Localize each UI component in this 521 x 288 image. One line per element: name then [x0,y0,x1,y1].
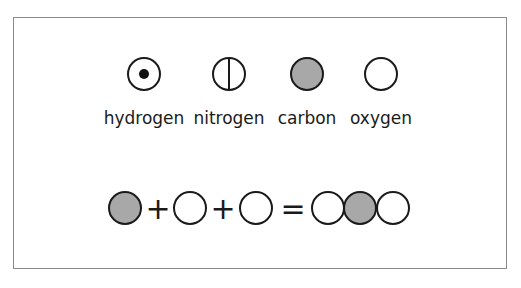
carbon-atom-icon [291,58,323,90]
reactant-carbon-icon [109,192,141,224]
legend-hydrogen: hydrogen [104,58,185,128]
hydrogen-label: hydrogen [104,108,185,128]
reactant-oxygen-icon-1 [174,192,206,224]
reactant-oxygen-icon-2 [240,192,272,224]
plus-sign-1: + [145,191,170,226]
oxygen-atom-icon [365,58,397,90]
co2-molecule [312,192,409,224]
legend-nitrogen: nitrogen [193,58,264,128]
product-carbon-icon [344,192,376,224]
legend-carbon: carbon [278,58,337,128]
carbon-label: carbon [278,108,337,128]
equation: + + = [109,191,409,226]
product-oxygen-icon-2 [377,192,409,224]
atom-diagram: hydrogen nitrogen carbon oxygen + + = [0,0,521,288]
legend-oxygen: oxygen [350,58,412,128]
plus-sign-2: + [210,191,235,226]
product-oxygen-icon-1 [312,192,344,224]
oxygen-label: oxygen [350,108,412,128]
nitrogen-label: nitrogen [193,108,264,128]
equals-sign: = [280,191,305,226]
